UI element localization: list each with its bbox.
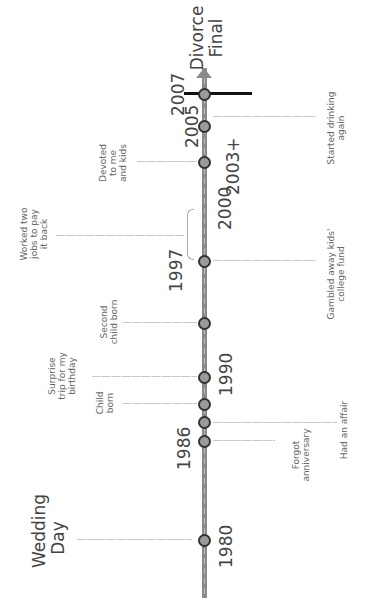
event-text: to me (108, 133, 118, 193)
end-label-line: Final (207, 0, 226, 78)
node-affair (198, 416, 211, 429)
divorce-marker-bar (184, 92, 252, 95)
event-text: born (105, 383, 115, 423)
node-2007 (198, 88, 211, 101)
event-text: birthday (67, 341, 77, 411)
leader-line (92, 376, 197, 377)
event-text: Had an affair (339, 395, 349, 465)
span-brace (187, 209, 194, 260)
event-second-child: Second child born (99, 292, 121, 352)
event-text: Started drinking (326, 83, 336, 173)
event-text: and kids (118, 133, 128, 193)
node-child-born (198, 398, 211, 411)
event-text: anniversary (301, 425, 311, 485)
start-label-line: Day (49, 508, 68, 568)
leader-line (77, 539, 192, 540)
leader-line (137, 161, 197, 162)
event-text: Child (95, 383, 105, 423)
event-gambled: Gambled away kids' college fund (326, 219, 348, 329)
node-1986 (198, 435, 211, 448)
start-label-line: Wedding (30, 508, 49, 568)
node-2003 (198, 156, 211, 169)
event-surprise: Surprise trip for my birthday (47, 341, 79, 411)
leader-line (123, 322, 197, 323)
event-drinking: Started drinking again (326, 83, 348, 173)
event-text: it back (39, 199, 49, 269)
end-label-line: Divorce (188, 0, 207, 78)
leader-line (123, 403, 197, 404)
year-1990: 1990 (216, 356, 236, 396)
event-child: Child born (95, 383, 117, 423)
event-text: trip for my (57, 341, 67, 411)
end-label: Divorce Final (188, 0, 228, 78)
start-label: Wedding Day (30, 508, 70, 568)
event-text: Gambled away kids' (326, 219, 336, 329)
event-affair: Had an affair (339, 395, 351, 465)
year-1980: 1980 (216, 528, 236, 568)
leader-line (213, 422, 337, 423)
leader-line (213, 440, 275, 441)
node-1980 (198, 534, 211, 547)
event-text: jobs to pay (29, 199, 39, 269)
year-1997: 1997 (166, 252, 186, 292)
year-1986: 1986 (174, 430, 194, 470)
node-second-child (198, 317, 211, 330)
year-2005: 2005 (182, 108, 202, 148)
event-forgot: Forgot anniversary (291, 425, 313, 485)
event-text: Forgot (291, 425, 301, 485)
event-text: Surprise (47, 341, 57, 411)
event-text: Devoted (98, 133, 108, 193)
event-devoted: Devoted to me and kids (98, 133, 130, 193)
event-text: Worked two (19, 199, 29, 269)
timeline-axis-dashes (204, 68, 205, 598)
event-text: again (336, 83, 346, 173)
event-text: college fund (336, 219, 346, 329)
event-text: child born (109, 292, 119, 352)
year-2000: 2000 (215, 190, 235, 230)
leader-line (56, 235, 184, 236)
node-1990 (198, 371, 211, 384)
leader-line (213, 260, 315, 261)
leader-line (213, 116, 315, 117)
event-worked: Worked two jobs to pay it back (19, 199, 51, 269)
event-text: Second (99, 292, 109, 352)
node-1997 (198, 255, 211, 268)
